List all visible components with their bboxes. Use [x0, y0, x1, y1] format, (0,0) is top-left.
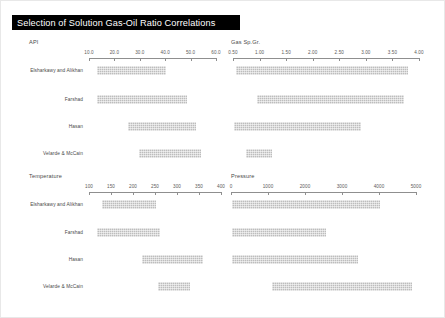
correlation-label: Farshad — [65, 230, 83, 235]
axis-pressure-line — [231, 192, 416, 193]
range-bar — [234, 122, 360, 131]
correlation-label: Elsharkawy and Alikhan — [30, 68, 83, 73]
correlation-label: Hasan — [69, 257, 83, 262]
axis-tick-label: 5000 — [411, 184, 422, 189]
range-bar — [257, 95, 404, 104]
range-bar — [272, 282, 413, 291]
panel-title-pressure: Pressure — [231, 173, 255, 179]
range-bar — [128, 122, 195, 131]
axis-tick — [379, 192, 380, 195]
range-bar — [232, 200, 379, 209]
range-bar — [232, 228, 326, 237]
range-bar — [139, 149, 201, 158]
range-bar — [246, 149, 272, 158]
range-bar — [97, 228, 160, 237]
axis-tick — [231, 192, 232, 195]
range-bar — [158, 282, 191, 291]
axis-tick-label: 3000 — [337, 184, 348, 189]
axis-tick-label: 1000 — [263, 184, 274, 189]
correlation-label: Hasan — [69, 124, 83, 129]
range-bar — [102, 200, 156, 209]
correlation-label: Velarde & McCain — [43, 284, 83, 289]
axis-tick — [342, 192, 343, 195]
range-bar — [97, 95, 187, 104]
correlation-label: Elsharkawy and Alikhan — [30, 202, 83, 207]
document-page: Selection of Solution Gas-Oil Ratio Corr… — [0, 0, 445, 318]
range-bar — [236, 66, 409, 75]
axis-tick-label: 4000 — [374, 184, 385, 189]
axis-tick — [416, 192, 417, 195]
range-bar — [142, 255, 203, 264]
range-bar — [97, 66, 167, 75]
correlation-label: Farshad — [65, 97, 83, 102]
correlation-label: Velarde & McCain — [43, 151, 83, 156]
axis-tick-label: 0 — [230, 184, 233, 189]
axis-tick — [305, 192, 306, 195]
axis-tick — [268, 192, 269, 195]
axis-tick-label: 2000 — [300, 184, 311, 189]
range-bar — [232, 255, 357, 264]
panel-pressure: Pressure 010002000300040005000 — [1, 1, 445, 318]
